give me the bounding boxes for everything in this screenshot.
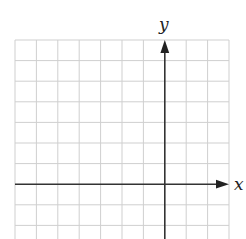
x-axis-arrow-icon xyxy=(216,180,229,189)
y-axis xyxy=(160,40,169,239)
y-axis-label: y xyxy=(158,14,169,34)
y-axis-arrow-icon xyxy=(160,40,169,53)
grid xyxy=(15,40,229,239)
coordinate-plane: x y xyxy=(0,0,246,239)
x-axis-label: x xyxy=(234,174,244,194)
